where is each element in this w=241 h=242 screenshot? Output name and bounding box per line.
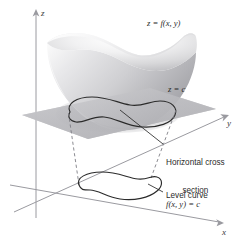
plane-equation-label: z = c	[168, 85, 185, 95]
x-axis-label: x	[222, 227, 226, 237]
figure-canvas: z = f(x, y) z = c Horizontal cross secti…	[0, 0, 241, 242]
level-curve	[78, 172, 161, 200]
y-axis-label: y	[227, 118, 231, 128]
plane-front-overlay	[22, 88, 216, 139]
surface-equation-label: z = f(x, y)	[147, 19, 180, 29]
level-curve-equation-label: f(x, y) = c	[166, 200, 200, 210]
cross-section-label-line1: Horizontal cross	[166, 158, 225, 167]
plane-front-quad	[22, 88, 216, 139]
z-axis-label: z	[41, 8, 45, 18]
x-axis-arrowhead	[216, 219, 224, 226]
